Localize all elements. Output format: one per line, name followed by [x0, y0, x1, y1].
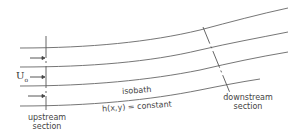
isobath-line-1	[20, 8, 288, 48]
upstream-label-line1: upstream	[26, 114, 68, 122]
downstream-section-line	[203, 27, 230, 93]
downstream-section-label: downstream section	[222, 94, 274, 111]
isobath-line-2	[20, 32, 288, 67]
arrow-head-1	[42, 57, 45, 60]
downstream-label-line2: section	[222, 103, 274, 111]
arrow-head-2	[42, 76, 45, 79]
arrow-head-3	[42, 95, 45, 98]
diagram-canvas: Uo isobath h(x,y) = constant upstream se…	[0, 0, 288, 137]
velocity-label: Uo	[16, 71, 28, 83]
upstream-section-label: upstream section	[26, 114, 68, 131]
upstream-label-line2: section	[26, 123, 68, 131]
downstream-label-line1: downstream	[222, 94, 274, 102]
